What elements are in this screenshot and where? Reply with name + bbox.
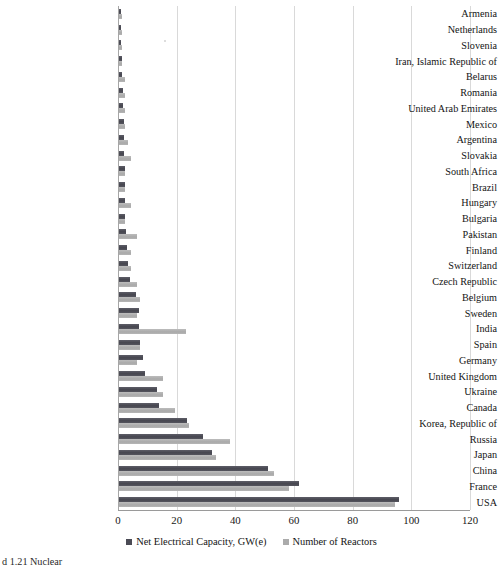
category-label: Slovenia [461,40,497,51]
bar-number-of-reactors [119,392,163,397]
category-label: Armenia [461,8,497,19]
legend-swatch-icon [126,539,132,545]
bar-number-of-reactors [119,234,137,239]
category-label: Spain [474,339,497,350]
bar-group [119,227,137,243]
bar-row: Switzerland [0,258,503,274]
category-label: Brazil [472,182,497,193]
bar-row: Iran, Islamic Republic of [0,53,503,69]
bar-group [119,384,163,400]
bar-group [119,274,137,290]
category-axis-line [118,510,470,511]
bar-row: China [0,463,503,479]
category-label: Switzerland [448,260,497,271]
bar-row: Hungary [0,195,503,211]
bar-number-of-reactors [119,30,122,35]
bar-group [119,195,131,211]
bar-row: Brazil [0,179,503,195]
bar-row: Ukraine [0,384,503,400]
bar-row: Russia [0,431,503,447]
category-label: Russia [470,434,497,445]
bar-number-of-reactors [119,329,186,334]
bar-group [119,242,131,258]
bar-group [119,69,125,85]
category-label: Argentina [456,134,497,145]
bar-group [119,290,140,306]
bar-number-of-reactors [119,250,131,255]
bar-number-of-reactors [119,203,131,208]
nuclear-capacity-bar-chart: ArmeniaNetherlandsSloveniaIran, Islamic … [0,0,503,570]
bar-row: France [0,479,503,495]
x-tick-label: 80 [347,514,358,526]
x-axis-tick-labels: 020406080100120 [118,514,470,534]
bar-group [119,353,143,369]
bar-group [119,164,125,180]
bar-group [119,337,140,353]
bar-number-of-reactors [119,297,140,302]
bar-group [119,38,122,54]
x-tick-label: 20 [171,514,182,526]
bar-row: Germany [0,353,503,369]
x-tick-label: 60 [289,514,300,526]
category-label: Romania [460,87,497,98]
bar-number-of-reactors [119,14,122,19]
bar-number-of-reactors [119,219,125,224]
bar-number-of-reactors [119,156,131,161]
category-label: Czech Republic [432,276,497,287]
category-label: Iran, Islamic Republic of [395,56,497,67]
bar-number-of-reactors [119,345,140,350]
legend-label: Net Electrical Capacity, GW(e) [136,536,266,547]
bar-number-of-reactors [119,376,163,381]
legend-item[interactable]: Number of Reactors [283,536,377,547]
category-label: Finland [466,245,497,256]
bar-row: Spain [0,337,503,353]
bar-row: Pakistan [0,227,503,243]
bar-number-of-reactors [119,502,395,507]
category-label: Mexico [466,119,497,130]
bar-row: Bulgaria [0,211,503,227]
bar-group [119,148,131,164]
bar-row: United Arab Emirates [0,101,503,117]
x-tick-label: 40 [230,514,241,526]
legend-swatch-icon [283,539,289,545]
bar-group [119,179,125,195]
bar-row: Japan [0,447,503,463]
bar-group [119,463,274,479]
bar-group [119,368,163,384]
bar-group [119,101,125,117]
bar-number-of-reactors [119,93,125,98]
category-label: Canada [466,402,497,413]
bar-group [119,258,131,274]
category-label: Hungary [461,197,497,208]
bar-row: Sweden [0,305,503,321]
bar-number-of-reactors [119,45,122,50]
category-label: USA [477,497,497,508]
bar-group [119,53,122,69]
x-tick-label: 120 [462,514,478,526]
x-tick-label: 0 [115,514,120,526]
bar-group [119,494,399,510]
bar-row: Slovenia [0,38,503,54]
bar-group [119,6,122,22]
bar-number-of-reactors [119,77,125,82]
bar-number-of-reactors [119,455,216,460]
category-label: China [473,465,497,476]
bar-row: Argentina [0,132,503,148]
category-label: Belgium [462,292,497,303]
category-label: Ukraine [464,386,497,397]
category-label: South Africa [445,166,497,177]
bar-group [119,116,125,132]
category-label: India [476,323,497,334]
bar-row: Netherlands [0,22,503,38]
category-label: Bulgaria [462,213,497,224]
figure-caption: d 1.21 Nuclear [2,558,62,567]
bar-row: India [0,321,503,337]
bar-number-of-reactors [119,439,230,444]
category-label: United Kingdom [428,371,497,382]
bar-row: Belgium [0,290,503,306]
bar-group [119,22,122,38]
bar-number-of-reactors [119,140,128,145]
bar-number-of-reactors [119,171,125,176]
category-label: Pakistan [462,229,497,240]
legend-item[interactable]: Net Electrical Capacity, GW(e) [126,536,266,547]
